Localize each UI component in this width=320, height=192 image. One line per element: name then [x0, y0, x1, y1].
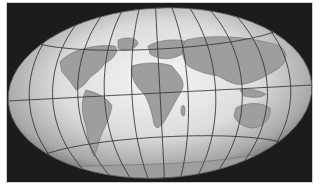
parallel-line — [79, 0, 231, 9]
parallel-line — [90, 178, 242, 192]
world-map — [0, 0, 320, 191]
island-madagascar — [181, 106, 185, 116]
